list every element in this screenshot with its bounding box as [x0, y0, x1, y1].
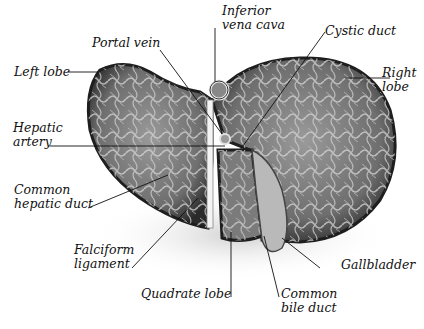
falciform-ligament-shape	[207, 100, 213, 228]
label-quadrate-lobe: Quadrate lobe	[141, 287, 232, 301]
label-line: ligament	[74, 257, 134, 271]
label-line: Left lobe	[14, 65, 70, 79]
label-gallbladder: Gallbladder	[341, 258, 415, 272]
liver-illustration	[0, 0, 424, 329]
liver-anatomy-diagram: Inferior vena cava Portal vein Cystic du…	[0, 0, 424, 329]
label-line: Gallbladder	[341, 258, 415, 272]
label-line: vena cava	[222, 18, 285, 32]
label-right-lobe: Right lobe	[382, 66, 417, 94]
label-line: Hepatic	[13, 121, 63, 135]
label-portal-vein: Portal vein	[92, 36, 160, 50]
label-line: artery	[13, 135, 63, 149]
label-line: Inferior	[222, 4, 285, 18]
label-line: lobe	[382, 80, 417, 94]
label-line: Right	[382, 66, 417, 80]
label-line: Quadrate lobe	[141, 287, 232, 301]
portal-vein-shape	[220, 134, 230, 144]
label-line: hepatic duct	[14, 197, 93, 211]
label-falciform-ligament: Falciform ligament	[74, 243, 134, 271]
label-left-lobe: Left lobe	[14, 65, 70, 79]
label-line: Common	[14, 183, 93, 197]
label-common-bile-duct: Common bile duct	[281, 287, 337, 315]
label-line: bile duct	[281, 301, 337, 315]
label-line: Common	[281, 287, 337, 301]
label-line: Portal vein	[92, 36, 160, 50]
label-cystic-duct: Cystic duct	[325, 24, 396, 38]
label-line: Cystic duct	[325, 24, 396, 38]
label-common-hepatic-duct: Common hepatic duct	[14, 183, 93, 211]
label-hepatic-artery: Hepatic artery	[13, 121, 63, 149]
label-line: Falciform	[74, 243, 134, 257]
label-inferior-vena-cava: Inferior vena cava	[222, 4, 285, 32]
